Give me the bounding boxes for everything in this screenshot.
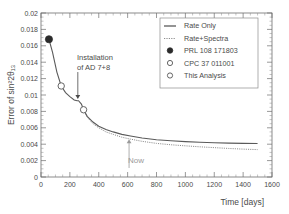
x-tick-label: 1400 — [235, 181, 251, 188]
legend-label: PRL 108 171803 — [184, 46, 238, 55]
now-annotation-label: Now — [128, 156, 144, 165]
y-tick-label: 0.012 — [20, 75, 38, 82]
x-tick-label: 1200 — [206, 181, 222, 188]
legend-marker-filled-circle — [167, 48, 173, 54]
y-tick-label: 0.018 — [20, 26, 38, 33]
y-tick-label: 0.016 — [20, 42, 38, 49]
x-tick-label: 800 — [151, 181, 163, 188]
data-point-open — [58, 83, 64, 89]
y-tick-label: 0.008 — [20, 108, 38, 115]
installation-arrow-head — [75, 95, 80, 99]
y-tick-label: 0.01 — [24, 92, 38, 99]
plot-canvas: 02004006008001000120014001600 00.0020.00… — [0, 0, 289, 214]
x-axis-tick-labels: 02004006008001000120014001600 — [39, 181, 280, 188]
legend-label: This Analysis — [184, 71, 226, 80]
legend-marker-open-circle — [167, 60, 172, 65]
y-tick-label: 0.02 — [24, 10, 38, 17]
legend-label: Rate Only — [184, 21, 216, 30]
y-tick-label: 0 — [34, 174, 38, 181]
y-axis-tick-labels: 00.0020.0040.0060.0080.010.0120.0140.016… — [20, 10, 38, 181]
legend-label: CPC 37 011001 — [184, 59, 235, 68]
chart-figure: 02004006008001000120014001600 00.0020.00… — [0, 0, 289, 214]
x-axis-title: Time [days] — [220, 197, 264, 207]
x-tick-label: 200 — [64, 181, 76, 188]
installation-annotation: Installation of AD 7+8 — [75, 53, 112, 99]
installation-annotation-line1: Installation — [77, 53, 113, 62]
x-tick-label: 600 — [122, 181, 134, 188]
y-axis-title: Error of sin²2θ₁₃ — [6, 65, 16, 125]
now-arrow-head — [127, 139, 132, 143]
y-tick-label: 0.002 — [20, 157, 38, 164]
legend: Rate OnlyRate+SpectraPRL 108 171803CPC 3… — [160, 18, 258, 88]
data-point-open — [80, 107, 86, 113]
now-annotation: Now — [127, 139, 145, 168]
y-tick-label: 0.004 — [20, 141, 38, 148]
y-tick-label: 0.014 — [20, 59, 38, 66]
x-tick-label: 1600 — [264, 181, 280, 188]
data-point-filled — [45, 36, 52, 43]
legend-marker-open-circle — [167, 73, 172, 78]
x-tick-label: 1000 — [178, 181, 194, 188]
x-tick-label: 0 — [39, 181, 43, 188]
x-tick-label: 400 — [93, 181, 105, 188]
legend-label: Rate+Spectra — [184, 34, 228, 43]
installation-annotation-line2: of AD 7+8 — [77, 63, 110, 72]
y-tick-label: 0.006 — [20, 124, 38, 131]
